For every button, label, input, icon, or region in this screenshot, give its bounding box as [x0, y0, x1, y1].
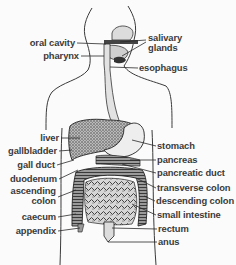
label-ascending-colon: ascending colon: [11, 186, 56, 206]
label-pancreas: pancreas: [157, 155, 197, 165]
label-caecum: caecum: [22, 212, 56, 222]
digestive-system-diagram: oral cavity pharynx liver gallbladder ga…: [0, 0, 236, 265]
small-intestine-shape: [85, 178, 137, 225]
label-appendix: appendix: [16, 226, 56, 236]
label-oral-cavity: oral cavity: [30, 38, 75, 48]
pancreas-shape: [96, 155, 140, 166]
label-pharynx: pharynx: [43, 51, 79, 61]
rectum-shape: [104, 222, 114, 242]
label-gallbladder: gallbladder: [8, 146, 57, 156]
label-transverse-colon: transverse colon: [157, 183, 230, 193]
label-ascending-line2: colon: [11, 196, 56, 206]
label-rectum: rectum: [158, 224, 189, 234]
label-salivary-glands: salivary glands: [148, 33, 182, 53]
label-descending-colon: descending colon: [156, 196, 234, 206]
label-duodenum: duodenum: [10, 174, 57, 184]
label-small-intestine: small intestine: [157, 210, 221, 220]
label-pancreatic-duct: pancreatic duct: [157, 168, 225, 178]
label-gall-duct: gall duct: [17, 160, 55, 170]
label-salivary-line2: glands: [148, 43, 182, 53]
label-anus: anus: [158, 237, 179, 247]
label-esophagus: esophagus: [139, 63, 188, 73]
label-liver: liver: [40, 133, 59, 143]
label-stomach: stomach: [157, 141, 195, 151]
